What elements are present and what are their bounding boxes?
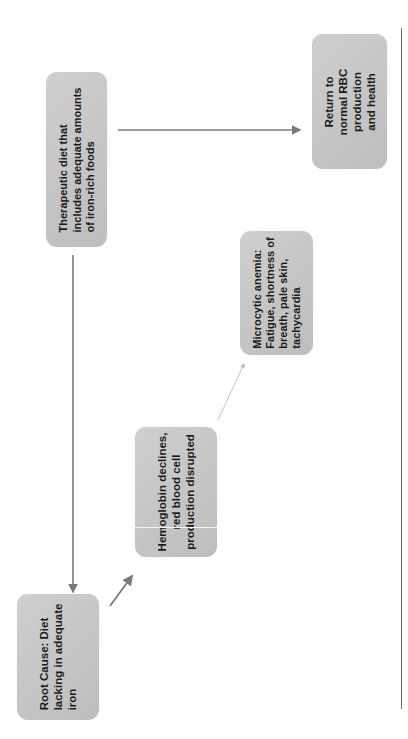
node-hemoglobin-label: Hemoglobin declines, red blood cell prod… bbox=[155, 433, 197, 552]
node-anemia: Microcytic anemia: Fatigue, shortness of… bbox=[240, 231, 313, 355]
node-hemoglobin-artifact-line bbox=[135, 527, 217, 528]
node-therapeutic-diet-label: Therapeutic diet that includes adequate … bbox=[56, 87, 97, 232]
node-return-normal-label: Return to normal RBC production and heal… bbox=[322, 68, 378, 134]
page-rule-vertical bbox=[401, 28, 402, 709]
node-root-cause-label: Root Cause: Diet lacking in adequate iro… bbox=[37, 604, 79, 711]
node-root-cause: Root Cause: Diet lacking in adequate iro… bbox=[17, 594, 99, 720]
arrow-root-to-hemoglobin bbox=[110, 576, 132, 606]
node-anemia-label: Microcytic anemia: Fatigue, shortness of… bbox=[251, 237, 303, 348]
node-therapeutic-diet: Therapeutic diet that includes adequate … bbox=[46, 72, 107, 247]
arrow-hemoglobin-to-anemia bbox=[218, 364, 244, 420]
node-hemoglobin: Hemoglobin declines, red blood cell prod… bbox=[135, 427, 217, 557]
node-return-normal: Return to normal RBC production and heal… bbox=[312, 34, 387, 169]
